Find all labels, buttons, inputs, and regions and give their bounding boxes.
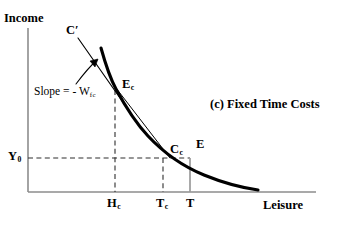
indifference-curve	[101, 48, 258, 190]
x-tick-label-hc-subscript: c	[117, 202, 121, 211]
x-tick-label-hc: Hc	[107, 197, 121, 210]
point-label-c: Cc	[170, 143, 183, 156]
slope-pointer-arrow	[76, 59, 98, 84]
x-tick-label-tc-subscript: c	[164, 202, 168, 211]
y-axis-title: Income	[4, 12, 44, 25]
x-tick-label-t-text: T	[186, 196, 194, 210]
y-tick-label-y0: Y0	[8, 150, 21, 163]
x-axis-title: Leisure	[263, 199, 303, 212]
point-label-ec-subscript: c	[130, 83, 134, 92]
point-label-c-text: C	[170, 142, 179, 156]
point-label-e-text: E	[196, 137, 204, 151]
x-tick-label-t: T	[186, 197, 194, 210]
slope-annotation-subscript: fc	[90, 91, 96, 98]
y-tick-label-y0-subscript: 0	[17, 155, 21, 164]
guide-line-group	[28, 90, 190, 192]
y-tick-label-y0-text: Y	[8, 149, 17, 163]
point-label-ec: Ec	[122, 78, 134, 91]
x-tick-label-tc: Tc	[156, 197, 168, 210]
panel-caption: (c) Fixed Time Costs	[210, 98, 320, 111]
budget-line-label-c-prime: C′	[66, 24, 79, 37]
slope-annotation: Slope = - Wfc	[34, 86, 96, 98]
fixed-time-costs-figure: Income Leisure C′ Ec Cc E Slope = - Wfc …	[0, 0, 338, 232]
x-tick-label-hc-text: H	[107, 196, 117, 210]
budget-line-label-text: C′	[66, 23, 79, 37]
slope-annotation-text: Slope = - W	[34, 85, 90, 97]
point-label-e: E	[196, 138, 204, 151]
point-label-c-subscript: c	[179, 148, 183, 157]
